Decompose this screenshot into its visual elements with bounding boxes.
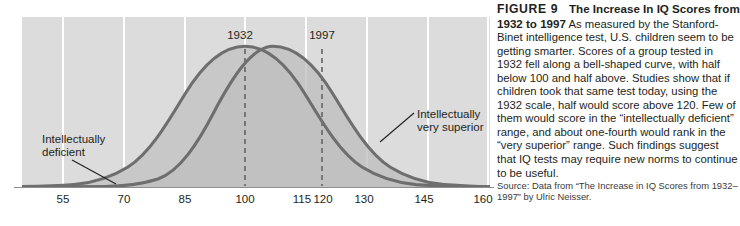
figure-body-text: As measured by the Stanford-Binet intell… bbox=[497, 18, 737, 179]
x-axis-tick-labels: 55 70 85 100 115 120 130 145 160 bbox=[57, 193, 493, 205]
annotation-deficient-line1: Intellectually bbox=[42, 133, 106, 145]
figure-source: Source: Data from “The Increase in IQ Sc… bbox=[497, 180, 740, 202]
tick-label-85: 85 bbox=[179, 193, 192, 205]
series-label-1997: 1997 bbox=[309, 29, 335, 41]
tick-label-160: 160 bbox=[473, 193, 492, 205]
tick-label-145: 145 bbox=[414, 193, 433, 205]
figure-title: The Increase In IQ Scores bbox=[569, 2, 711, 15]
caption-text-block: FIGURE 9The Increase In IQ Scores from 1… bbox=[497, 2, 740, 180]
chart-svg: 1932 1997 Intellectually deficient Intel… bbox=[0, 0, 494, 226]
iq-distribution-chart: 1932 1997 Intellectually deficient Intel… bbox=[0, 0, 494, 226]
tick-label-120: 120 bbox=[313, 193, 332, 205]
tick-label-55: 55 bbox=[57, 193, 70, 205]
series-label-1932: 1932 bbox=[227, 29, 253, 41]
tick-label-130: 130 bbox=[354, 193, 373, 205]
figure-number: FIGURE 9 bbox=[497, 2, 558, 16]
annotation-deficient-line2: deficient bbox=[42, 146, 86, 158]
annotation-superior-line1: Intellectually bbox=[417, 108, 481, 120]
tick-label-70: 70 bbox=[118, 193, 131, 205]
figure-caption: FIGURE 9The Increase In IQ Scores from 1… bbox=[497, 2, 740, 226]
tick-label-100: 100 bbox=[235, 193, 254, 205]
annotation-superior-line2: very superior bbox=[417, 121, 484, 133]
tick-label-115: 115 bbox=[293, 193, 311, 205]
